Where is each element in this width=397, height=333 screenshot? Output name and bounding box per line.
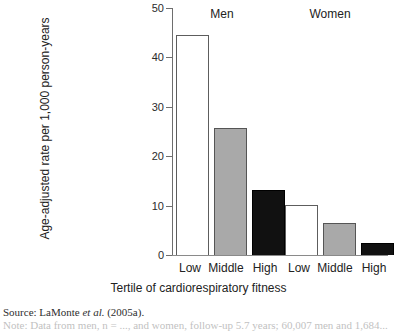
y-tick-label-0: 0 [138, 250, 164, 261]
y-tick-label-50: 50 [138, 3, 164, 14]
x-axis-title: Tertile of cardiorespiratory fitness [0, 282, 397, 295]
bar-women-middle [323, 223, 356, 255]
source-italic: et al. [82, 306, 104, 318]
bar-men-high [252, 190, 285, 255]
bar-men-low [176, 35, 209, 255]
y-tick-label-40: 40 [138, 52, 164, 63]
x-axis-line [172, 255, 388, 256]
bar-women-low [285, 205, 318, 255]
source-suffix: (2005a). [104, 306, 144, 318]
y-tick-mark-0 [166, 255, 172, 256]
y-axis-title: Age-adjusted rate per 1,000 person-years [39, 4, 52, 254]
group-label-men: Men [192, 8, 252, 20]
source-prefix: Source: LaMonte [3, 306, 82, 318]
bar-chart-figure: 50 40 30 20 10 0 Men Women Low Middle Hi… [0, 0, 397, 300]
y-tick-mark-40 [166, 57, 172, 58]
bar-men-middle [214, 128, 247, 255]
plot-area [173, 8, 388, 255]
y-tick-mark-20 [166, 156, 172, 157]
footnotes-block: Source: LaMonte et al. (2005a). Note: Da… [3, 306, 395, 331]
group-label-women: Women [295, 8, 365, 20]
note-line: Note: Data from men, n = ..., and women,… [3, 319, 395, 331]
y-tick-label-10: 10 [138, 201, 164, 212]
y-tick-label-20: 20 [138, 151, 164, 162]
y-tick-mark-30 [166, 107, 172, 108]
y-tick-label-30: 30 [138, 102, 164, 113]
bar-women-high [361, 243, 394, 255]
source-line: Source: LaMonte et al. (2005a). [3, 306, 395, 319]
y-tick-mark-50 [166, 8, 172, 9]
x-label-women-high: High [346, 262, 397, 275]
y-tick-mark-10 [166, 206, 172, 207]
